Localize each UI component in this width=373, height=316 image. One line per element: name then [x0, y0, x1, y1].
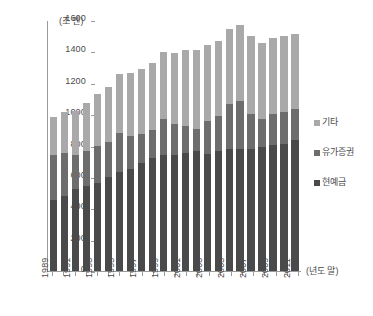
- bar-segment: [236, 101, 243, 149]
- x-axis-label-slot: [280, 277, 287, 313]
- bar-segment: [182, 153, 189, 271]
- bar-segment: [50, 200, 57, 271]
- bar-column: [116, 21, 123, 271]
- bar-segment: [160, 155, 167, 271]
- chart-legend: 기타유가증권현예금: [314, 118, 372, 208]
- bar-segment: [50, 155, 57, 200]
- x-axis-label-slot: 1991: [71, 277, 78, 313]
- x-axis-tick-label: 2011: [283, 254, 292, 278]
- bar-segment: [61, 153, 68, 196]
- bar-column: [138, 21, 145, 271]
- x-axis-label-slot: 1995: [115, 277, 122, 313]
- x-axis-label-slot: 1989: [49, 277, 56, 313]
- bar-segment: [247, 36, 254, 114]
- x-axis-label-slot: 1997: [137, 277, 144, 313]
- bar-segment: [291, 34, 298, 110]
- x-axis-caption: (년도 말): [306, 266, 339, 277]
- x-axis-tick-mark: [186, 272, 187, 276]
- bar-column: [61, 21, 68, 271]
- bar-segment: [269, 145, 276, 271]
- bar-segment: [72, 189, 79, 271]
- x-axis-tick-label: 2005: [217, 254, 226, 278]
- legend-label: 현예금: [322, 178, 346, 187]
- legend-item[interactable]: 현예금: [314, 178, 372, 187]
- bar-segment: [171, 53, 178, 123]
- bar-segment: [116, 172, 123, 271]
- bar-column: [182, 21, 189, 271]
- x-axis-tick-mark: [52, 272, 53, 276]
- bar-segment: [182, 126, 189, 153]
- bar-segment: [94, 183, 101, 271]
- bar-segment: [105, 87, 112, 143]
- bar-segment: [258, 119, 265, 147]
- bar-segment: [236, 25, 243, 101]
- x-axis-label-slot: 2009: [269, 277, 276, 313]
- bar-segment: [269, 38, 276, 114]
- x-axis-tick-label: 1993: [85, 254, 94, 278]
- x-axis-label-slot: [82, 277, 89, 313]
- x-axis-label-slot: [214, 277, 221, 313]
- bar-segment: [72, 155, 79, 189]
- bar-segment: [247, 114, 254, 149]
- x-axis-tick-mark: [209, 272, 210, 276]
- x-axis-tick-label: 1989: [41, 254, 50, 278]
- bar-segment: [204, 121, 211, 154]
- bar-segment: [215, 116, 222, 152]
- bar-column: [193, 21, 200, 271]
- x-axis-label-slot: 1993: [93, 277, 100, 313]
- x-axis-label-slot: 2001: [181, 277, 188, 313]
- stacked-bar-chart: (조 엔) 02004006008001000120014001600 1989…: [0, 0, 373, 316]
- bar-segment: [160, 52, 167, 119]
- bar-segment: [127, 73, 134, 135]
- bar-column: [204, 21, 211, 271]
- x-axis-tick-mark: [253, 272, 254, 276]
- bar-segment: [193, 151, 200, 271]
- bar-segment: [138, 69, 145, 134]
- x-axis-label-slot: [148, 277, 155, 313]
- x-axis-tick-mark: [142, 272, 143, 276]
- bar-segment: [226, 29, 233, 104]
- bar-column: [94, 21, 101, 271]
- bar-segment: [204, 45, 211, 122]
- legend-swatch-other: [314, 120, 320, 126]
- x-axis-tick-mark: [164, 272, 165, 276]
- x-axis-tick-label: 1997: [129, 254, 138, 278]
- legend-item[interactable]: 유가증권: [314, 148, 372, 157]
- bar-segment: [61, 112, 68, 154]
- bar-segment: [72, 111, 79, 156]
- bar-segment: [193, 129, 200, 151]
- x-axis-label-slot: 2003: [203, 277, 210, 313]
- bar-segment: [94, 146, 101, 183]
- bar-column: [105, 21, 112, 271]
- bar-segment: [149, 130, 156, 158]
- x-axis-tick-label: 2009: [261, 254, 270, 278]
- bar-segment: [280, 36, 287, 112]
- bar-column: [258, 21, 265, 271]
- x-axis-label-slot: [170, 277, 177, 313]
- bar-segment: [138, 163, 145, 271]
- bar-segment: [50, 117, 57, 155]
- legend-item[interactable]: 기타: [314, 118, 372, 127]
- bar-segment: [193, 50, 200, 129]
- bar-segment: [280, 144, 287, 271]
- x-axis-label-slot: 2005: [225, 277, 232, 313]
- bar-segment: [182, 50, 189, 127]
- x-axis-tick-label: 2007: [239, 254, 248, 278]
- bar-segment: [116, 74, 123, 134]
- bar-segment: [269, 114, 276, 145]
- bar-column: [83, 21, 90, 271]
- bar-segment: [105, 142, 112, 177]
- bar-segment: [83, 151, 90, 186]
- x-axis-tick-mark: [231, 272, 232, 276]
- bar-segment: [258, 43, 265, 119]
- x-axis-label-slot: [192, 277, 199, 313]
- legend-label: 유가증권: [322, 148, 354, 157]
- bar-column: [127, 21, 134, 271]
- bar-segment: [149, 63, 156, 130]
- x-axis-tick-label: 2001: [173, 254, 182, 278]
- x-axis-tick-mark: [75, 272, 76, 276]
- bar-segment: [171, 124, 178, 155]
- x-axis-label-slot: 2007: [247, 277, 254, 313]
- x-axis-tick-label: 1999: [151, 254, 160, 278]
- x-axis-label-slot: [236, 277, 243, 313]
